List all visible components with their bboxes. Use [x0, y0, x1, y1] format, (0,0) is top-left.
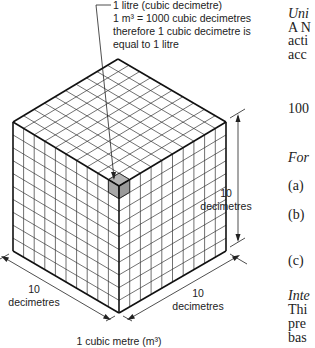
side-text-line: For — [287, 150, 310, 165]
side-text-column: UniA Nactiacc100For(a)(b)(c)InteThipreba… — [287, 6, 311, 345]
side-text-line: Thi — [288, 302, 308, 317]
left-depth-dimension-value: 10 — [28, 283, 40, 295]
annotation-line-4: equal to 1 litre — [113, 38, 179, 50]
side-text-line: 100 — [288, 101, 309, 116]
height-dimension-unit: decimetres — [200, 200, 251, 212]
annotation-line-2: 1 m³ = 1000 cubic decimetres — [113, 12, 251, 24]
height-dimension-value: 10 — [220, 187, 232, 199]
cubic-metre-diagram: 1 litre (cubic decimetre) 1 m³ = 1000 cu… — [0, 0, 315, 348]
annotation-line-1: 1 litre (cubic decimetre) — [113, 0, 222, 11]
height-dimension — [230, 109, 245, 247]
side-text-line: acc — [288, 47, 307, 62]
annotation-line-3: therefore 1 cubic decimetre is — [113, 25, 251, 37]
right-width-dimension-value: 10 — [192, 287, 204, 299]
side-text-line: (a) — [288, 178, 304, 194]
right-width-dimension-unit: decimetres — [172, 300, 223, 312]
side-text-line: pre — [288, 316, 306, 331]
side-text-line: Inte — [287, 288, 310, 303]
side-text-line: acti — [288, 33, 308, 48]
left-depth-dimension-unit: decimetres — [8, 296, 59, 308]
side-text-line: (b) — [288, 207, 305, 223]
side-text-line: (c) — [288, 253, 304, 269]
side-text-line: Uni — [288, 6, 309, 21]
side-text-line: bas — [288, 330, 307, 345]
annotation-text: 1 litre (cubic decimetre) 1 m³ = 1000 cu… — [113, 0, 251, 50]
diagram-caption: 1 cubic metre (m³) — [76, 335, 161, 347]
